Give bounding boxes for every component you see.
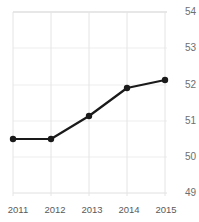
chart-plot-area <box>0 0 199 222</box>
x-tick-label-2012: 2012 <box>44 204 65 215</box>
y-tick-label-52: 52 <box>185 80 196 90</box>
y-tick-label-54: 54 <box>185 7 196 17</box>
grid-lines-vertical <box>13 12 165 196</box>
x-tick-label-2013: 2013 <box>81 204 102 215</box>
y-tick-label-50: 50 <box>185 152 196 162</box>
data-point-2013 <box>86 113 92 119</box>
y-tick-label-49: 49 <box>185 188 196 198</box>
data-point-2012 <box>48 136 54 142</box>
data-point-2014 <box>124 85 130 91</box>
data-point-2011 <box>10 136 16 142</box>
x-tick-label-2015: 2015 <box>155 204 176 215</box>
x-tick-label-2011: 2011 <box>8 204 28 215</box>
line-chart: 54 53 52 51 50 49 2011 2012 2013 2014 20… <box>0 0 199 222</box>
y-tick-label-51: 51 <box>185 116 196 126</box>
data-point-2015 <box>162 77 168 83</box>
x-tick-label-2014: 2014 <box>118 204 139 215</box>
y-tick-label-53: 53 <box>185 43 196 53</box>
grid-lines-horizontal <box>13 12 167 193</box>
